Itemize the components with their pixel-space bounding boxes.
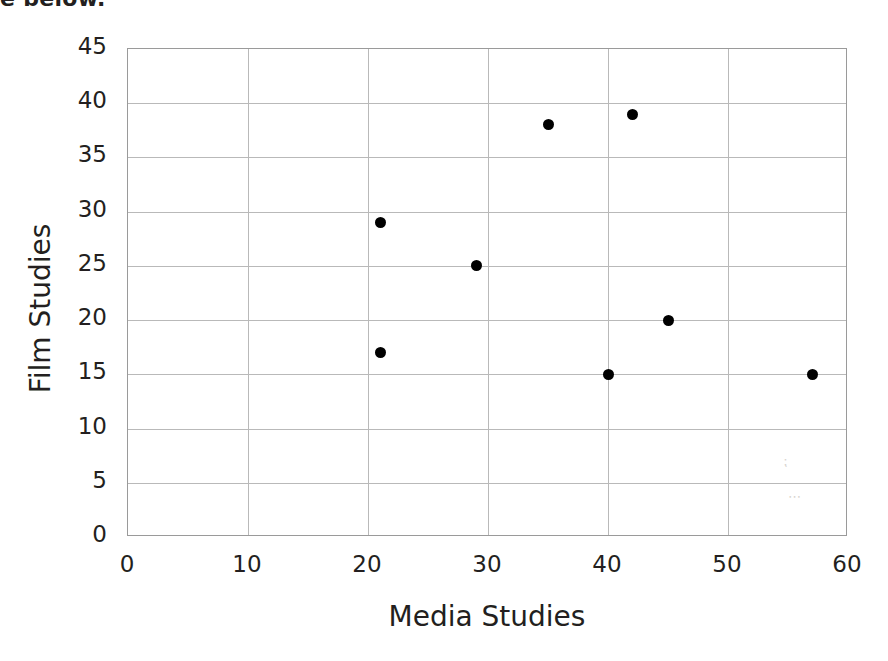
gridline-vertical xyxy=(368,49,369,535)
x-axis-tick-label: 30 xyxy=(472,551,501,577)
data-point xyxy=(603,369,614,380)
y-axis-tick-label: 45 xyxy=(47,33,107,59)
gridline-vertical xyxy=(608,49,609,535)
y-axis-tick-label: 40 xyxy=(47,87,107,113)
gridline-vertical xyxy=(488,49,489,535)
x-axis-tick-label: 10 xyxy=(232,551,261,577)
gridline-horizontal xyxy=(128,103,846,104)
gridline-vertical xyxy=(728,49,729,535)
data-point xyxy=(807,369,818,380)
data-point xyxy=(471,260,482,271)
y-axis-title: Film Studies xyxy=(24,149,57,469)
scan-smudge-b: ⋯ xyxy=(788,489,801,504)
x-axis-tick-label: 60 xyxy=(832,551,861,577)
data-point xyxy=(543,119,554,130)
gridline-vertical xyxy=(248,49,249,535)
gridline-horizontal xyxy=(128,483,846,484)
x-axis-tick-label: 0 xyxy=(120,551,135,577)
data-point xyxy=(375,217,386,228)
data-point xyxy=(375,347,386,358)
x-axis-tick-label: 50 xyxy=(712,551,741,577)
data-point xyxy=(663,315,674,326)
y-axis-tick-label: 5 xyxy=(47,467,107,493)
gridline-horizontal xyxy=(128,374,846,375)
scan-smudge-a: ⁏ xyxy=(783,454,787,469)
gridline-horizontal xyxy=(128,212,846,213)
scatter-chart-figure: 051015202530354045 0102030405060 ⁏ ⋯ Fil… xyxy=(0,0,888,661)
gridline-horizontal xyxy=(128,429,846,430)
chart-page: e below. 051015202530354045 010203040506… xyxy=(0,0,888,661)
x-axis-tick-label: 40 xyxy=(592,551,621,577)
data-point xyxy=(627,109,638,120)
gridline-horizontal xyxy=(128,320,846,321)
plot-area: ⁏ ⋯ xyxy=(127,48,847,536)
gridline-horizontal xyxy=(128,157,846,158)
x-axis-tick-label: 20 xyxy=(352,551,381,577)
x-axis-title: Media Studies xyxy=(127,600,847,633)
gridline-horizontal xyxy=(128,266,846,267)
y-axis-tick-label: 0 xyxy=(47,521,107,547)
